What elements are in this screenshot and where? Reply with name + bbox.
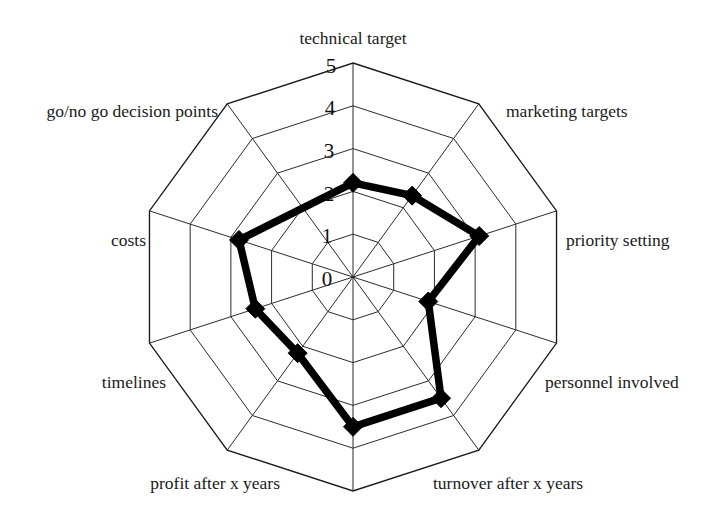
tick-label-0: 0 xyxy=(322,267,333,291)
radar-chart: 0 1 2 3 4 5 technical target marketing t… xyxy=(0,0,718,516)
series-marker-4 xyxy=(432,389,451,408)
category-label-go-no-go-decision-points: go/no go decision points xyxy=(46,101,218,121)
tick-label-3: 3 xyxy=(324,139,335,163)
radar-chart-svg: 0 1 2 3 4 5 technical target marketing t… xyxy=(0,0,718,516)
category-label-timelines: timelines xyxy=(102,372,166,392)
category-label-priority-setting: priority setting xyxy=(566,230,670,250)
tick-label-2: 2 xyxy=(324,182,335,206)
axis-spoke-6 xyxy=(227,277,353,450)
axis-spoke-3 xyxy=(353,277,557,343)
category-label-costs: costs xyxy=(111,230,146,250)
radial-tick-labels: 0 1 2 3 4 5 xyxy=(322,54,337,291)
category-label-technical-target: technical target xyxy=(299,28,406,48)
tick-label-5: 5 xyxy=(326,54,337,78)
category-label-profit-after-x-years: profit after x years xyxy=(150,473,280,493)
category-label-personnel-involved: personnel involved xyxy=(545,372,679,392)
tick-label-1: 1 xyxy=(322,224,333,248)
category-label-marketing-targets: marketing targets xyxy=(506,101,628,121)
category-label-turnover-after-x-years: turnover after x years xyxy=(433,473,583,493)
tick-label-4: 4 xyxy=(325,96,336,120)
